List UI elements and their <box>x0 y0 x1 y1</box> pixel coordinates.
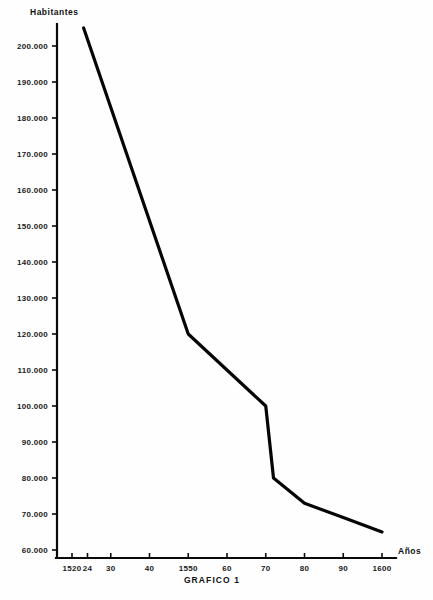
y-tick-label: 80.000 <box>22 474 49 483</box>
y-tick-label: 200.000 <box>17 42 48 51</box>
y-tick-label: 180.000 <box>17 114 48 123</box>
y-tick-label: 130.000 <box>17 294 48 303</box>
x-tick-label: 60 <box>222 564 232 573</box>
x-tick-label: 80 <box>300 564 310 573</box>
x-tick-label: 1600 <box>373 564 392 573</box>
y-tick-label: 140.000 <box>17 258 48 267</box>
y-tick-label: 110.000 <box>17 366 48 375</box>
y-tick-label: 120.000 <box>17 330 48 339</box>
y-tick-label: 60.000 <box>22 546 49 555</box>
x-tick-label: 70 <box>261 564 271 573</box>
x-tick-label: 30 <box>106 564 116 573</box>
y-tick-label: 90.000 <box>22 438 49 447</box>
chart-page: Habitantes Años 200.000190.000180.000170… <box>0 0 433 600</box>
x-tick-label: 1520 <box>63 564 82 573</box>
chart-background <box>0 0 433 600</box>
y-tick-label: 100.000 <box>17 402 48 411</box>
population-line-chart: Habitantes Años 200.000190.000180.000170… <box>0 0 433 600</box>
x-tick-label: 40 <box>145 564 155 573</box>
y-tick-label: 150.000 <box>17 222 48 231</box>
y-tick-label: 190.000 <box>17 78 48 87</box>
figure-caption: GRAFICO 1 <box>184 575 240 585</box>
y-tick-label: 70.000 <box>22 510 49 519</box>
y-axis-title: Habitantes <box>30 7 78 17</box>
x-axis-title: Años <box>398 546 421 556</box>
x-tick-label: 24 <box>83 564 93 573</box>
x-tick-label: 90 <box>339 564 349 573</box>
y-tick-label: 160.000 <box>17 186 48 195</box>
x-tick-label: 1550 <box>179 564 198 573</box>
y-tick-label: 170.000 <box>17 150 48 159</box>
